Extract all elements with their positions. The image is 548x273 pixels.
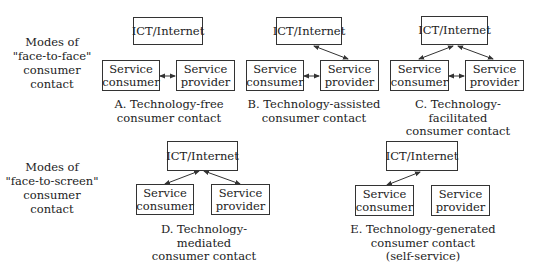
caption-line: C. Technology-facilitated [388, 98, 528, 125]
box-label: provider [181, 76, 231, 89]
row-label-line: "face-to-screen" [4, 174, 100, 188]
diagram-b-ict-box: ICT/Internet [276, 17, 342, 45]
caption-line: consumer contact [388, 125, 528, 139]
box-label: Service [470, 63, 520, 76]
box-label: Service [216, 187, 266, 200]
diagram-d-caption: D. Technology-mediated consumer contact [134, 223, 274, 264]
box-label: provider [436, 201, 486, 214]
box-label: Service [391, 63, 448, 76]
caption-line: consumer contact [108, 112, 230, 126]
box-label: Service [246, 63, 303, 76]
diagram-c-ict-box: ICT/Internet [421, 16, 488, 45]
box-label: Service [102, 63, 159, 76]
caption-line: consumer contact [134, 250, 274, 264]
box-label: consumer [356, 201, 413, 214]
diagram-c-caption: C. Technology-facilitated consumer conta… [388, 98, 528, 139]
diagram-c-consumer-box: Serviceconsumer [390, 60, 449, 91]
diagram-e-caption: E. Technology-generated consumer contact… [350, 223, 496, 264]
row-label-face-to-face: Modes of "face-to-face" consumer contact [4, 35, 100, 91]
caption-line: A. Technology-free [108, 98, 230, 112]
diagram-c-provider-box: Serviceprovider [465, 60, 524, 91]
diagram-b-provider-box: Serviceprovider [320, 60, 379, 91]
arrow-d-ict-provider [204, 171, 240, 184]
caption-line: consumer contact [246, 112, 382, 126]
arrow-c-ict-consumer [419, 46, 453, 59]
diagram-b-caption: B. Technology-assisted consumer contact [246, 98, 382, 125]
box-label: Service [181, 63, 231, 76]
box-label: provider [325, 76, 375, 89]
box-label: consumer [102, 76, 159, 89]
diagram-e-consumer-box: Serviceconsumer [355, 185, 414, 216]
box-label: ICT/Internet [166, 150, 239, 163]
diagram-a-consumer-box: Serviceconsumer [102, 60, 160, 91]
box-label: provider [470, 76, 520, 89]
box-label: Service [356, 188, 413, 201]
caption-line: consumer contact [350, 237, 496, 251]
diagram-a-caption: A. Technology-free consumer contact [108, 98, 230, 125]
arrow-c-ict-provider [458, 46, 493, 59]
diagram-b-consumer-box: Serviceconsumer [246, 60, 304, 91]
caption-line: E. Technology-generated [350, 223, 496, 237]
caption-line: B. Technology-assisted [246, 98, 382, 112]
box-label: provider [216, 200, 266, 213]
diagram-e-ict-box: ICT/Internet [386, 141, 458, 171]
box-label: consumer [136, 200, 193, 213]
box-label: ICT/Internet [386, 150, 459, 163]
diagram-d-provider-box: Serviceprovider [211, 184, 270, 215]
arrow-b-ict-provider [314, 46, 348, 59]
arrow-e-ict-consumer [387, 172, 420, 185]
diagram-e-provider-box: Serviceprovider [431, 185, 490, 216]
box-label: ICT/Internet [418, 24, 491, 37]
box-label: consumer [391, 76, 448, 89]
row-label-line: consumer contact [4, 188, 100, 216]
row-label-line: Modes of [4, 35, 100, 49]
box-label: Service [436, 188, 486, 201]
caption-line: (self-service) [350, 250, 496, 264]
box-label: Service [136, 187, 193, 200]
diagram-d-ict-box: ICT/Internet [167, 141, 238, 171]
box-label: ICT/Internet [132, 25, 205, 38]
row-label-line: Modes of [4, 160, 100, 174]
row-label-line: consumer contact [4, 63, 100, 91]
diagram-a-provider-box: Serviceprovider [176, 60, 235, 91]
box-label: Service [325, 63, 375, 76]
box-label: ICT/Internet [273, 25, 346, 38]
row-label-line: "face-to-face" [4, 49, 100, 63]
diagram-d-consumer-box: Serviceconsumer [136, 184, 194, 215]
caption-line: D. Technology-mediated [134, 223, 274, 250]
arrow-d-ict-consumer [165, 171, 199, 184]
row-label-face-to-screen: Modes of "face-to-screen" consumer conta… [4, 160, 100, 216]
box-label: consumer [246, 76, 303, 89]
diagram-a-ict-box: ICT/Internet [133, 17, 203, 45]
